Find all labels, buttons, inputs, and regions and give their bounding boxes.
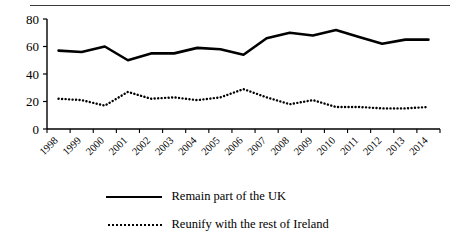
chart-legend-second: Reunify with the rest of Ireland	[0, 218, 457, 231]
chart-legend: Remain part of the UK	[0, 190, 457, 203]
series-line-remain-part-of-the-uk	[59, 30, 429, 60]
svg-text:2009: 2009	[292, 135, 315, 158]
legend-item-remain-part-of-the-uk: Remain part of the UK	[104, 190, 354, 203]
svg-text:2006: 2006	[222, 135, 245, 158]
x-axis-tick-labels: 1998199920002001200220032004200520062007…	[37, 134, 430, 157]
svg-text:2014: 2014	[407, 134, 430, 157]
svg-text:2000: 2000	[84, 135, 107, 158]
chart-plot-area: 020406080 199819992000200120022003200420…	[0, 0, 457, 180]
svg-text:2010: 2010	[315, 135, 338, 158]
svg-text:2013: 2013	[384, 135, 407, 158]
svg-text:2004: 2004	[176, 134, 199, 157]
svg-text:1999: 1999	[60, 135, 83, 158]
series-line-reunify-with-the-rest-of-ireland	[59, 89, 429, 108]
svg-text:60: 60	[26, 39, 39, 54]
svg-text:20: 20	[26, 94, 39, 109]
svg-text:2005: 2005	[199, 135, 222, 158]
svg-text:2001: 2001	[107, 135, 130, 158]
legend-swatch-dotted-line-icon	[104, 218, 164, 230]
legend-swatch-solid-line-icon	[104, 190, 164, 202]
svg-text:2008: 2008	[269, 135, 292, 158]
svg-text:2002: 2002	[130, 135, 153, 158]
svg-text:1998: 1998	[37, 135, 60, 158]
svg-text:0: 0	[33, 122, 40, 137]
legend-label-remain-part-of-the-uk: Remain part of the UK	[164, 190, 287, 203]
svg-text:2007: 2007	[245, 135, 268, 158]
legend-label-reunify-with-the-rest-of-ireland: Reunify with the rest of Ireland	[164, 218, 329, 231]
svg-text:2011: 2011	[338, 135, 360, 157]
svg-text:80: 80	[26, 12, 39, 27]
svg-text:2012: 2012	[361, 135, 384, 158]
legend-item-reunify-with-the-rest-of-ireland: Reunify with the rest of Ireland	[104, 218, 354, 231]
svg-text:2003: 2003	[153, 135, 176, 158]
svg-text:40: 40	[26, 67, 39, 82]
line-chart-figure: 020406080 199819992000200120022003200420…	[0, 0, 457, 246]
top-horizontal-rule	[30, 5, 450, 6]
y-axis-tick-labels: 020406080	[26, 12, 39, 137]
